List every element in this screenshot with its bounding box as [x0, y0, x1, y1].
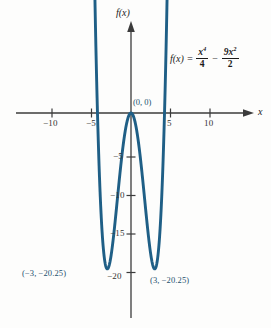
- equation-term-2: 9x2 2: [222, 48, 239, 70]
- x-axis-label: x: [258, 107, 262, 117]
- y-tick-label--20: −20: [107, 272, 122, 281]
- y-axis-label: f(x): [116, 8, 130, 18]
- y-axis-arrowhead: [127, 21, 135, 32]
- equation-term-1: x4 4: [196, 48, 208, 70]
- equation-term-2-denominator: 2: [228, 59, 233, 69]
- y-tick-label--15: −15: [110, 229, 125, 238]
- left-minimum-label: (−3, −20.25): [22, 269, 66, 278]
- origin-point-label: (0, 0): [133, 98, 151, 107]
- y-tick-label--5: −5: [113, 152, 123, 161]
- function-graph-figure: −10 −5 5 10 −5 −10 −15 −20 f(x) x (0, 0)…: [0, 0, 271, 328]
- equation-term-1-denominator: 4: [200, 59, 205, 69]
- right-minimum-label: (3, −20.25): [150, 276, 189, 285]
- x-axis-arrowhead: [243, 109, 254, 117]
- x-tick-label-10: 10: [204, 119, 213, 128]
- x-tick-label-5: 5: [167, 119, 172, 128]
- equation-term-2-numerator: 9x2: [222, 48, 239, 59]
- equation-operator: −: [211, 53, 219, 64]
- equation-lhs: f(x) =: [170, 53, 193, 64]
- x-tick-label--5: −5: [86, 119, 96, 128]
- y-tick-label--10: −10: [110, 191, 125, 200]
- equation-annotation: f(x) = x4 4 − 9x2 2: [170, 48, 239, 70]
- x-tick-label--10: −10: [43, 119, 58, 128]
- equation-term-1-numerator: x4: [196, 48, 208, 59]
